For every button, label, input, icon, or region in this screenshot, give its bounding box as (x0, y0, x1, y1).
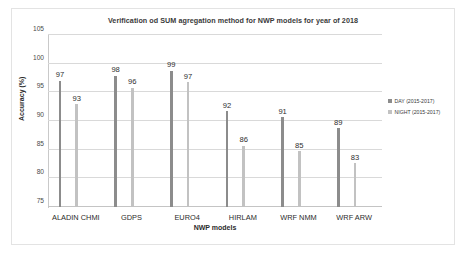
x-axis-category-label: EURO4 (174, 213, 199, 222)
bar-value-label: 85 (295, 141, 303, 150)
bar-value-label: 98 (111, 65, 119, 74)
bar: 98 (114, 76, 117, 207)
bar: 93 (75, 104, 78, 207)
chart-container: Verification od SUM agregation method fo… (11, 8, 455, 245)
chart-title: Verification od SUM agregation method fo… (12, 16, 454, 25)
bar-value-label: 91 (278, 107, 286, 116)
plot-area: 1051009590858075 9793ALADIN CHMI9896GDPS… (48, 35, 382, 207)
y-axis-tick-label: 80 (37, 168, 44, 175)
bar: 96 (131, 88, 134, 207)
bar: 97 (187, 82, 190, 207)
bar-value-label: 83 (351, 153, 359, 162)
bar: 85 (298, 151, 301, 207)
x-axis-category-label: HIRLAM (229, 213, 257, 222)
legend-item[interactable]: DAY (2015-2017) (388, 98, 454, 104)
bar-value-label: 96 (128, 77, 136, 86)
bar-value-label: 92 (223, 101, 231, 110)
legend-item[interactable]: NIGHT (2015-2017) (388, 109, 454, 115)
x-axis-category-label: GDPS (121, 213, 142, 222)
chart-legend: DAY (2015-2017)NIGHT (2015-2017) (388, 98, 454, 120)
bar-value-label: 97 (184, 72, 192, 81)
legend-label: NIGHT (2015-2017) (395, 109, 441, 115)
bar-value-label: 99 (167, 60, 175, 69)
y-axis-tick-label: 100 (33, 53, 44, 60)
bar-group: 9896GDPS (104, 35, 160, 207)
x-axis-category-label: WRF ARW (336, 213, 372, 222)
legend-swatch-icon (388, 99, 392, 103)
bar-group: 9286HIRLAM (215, 35, 271, 207)
bar-group: 8983WRF ARW (326, 35, 382, 207)
bar: 91 (281, 117, 284, 207)
y-axis-tick-label: 75 (37, 197, 44, 204)
x-axis-category-label: ALADIN CHMI (52, 213, 100, 222)
y-axis-tick-label: 95 (37, 82, 44, 89)
bar-value-label: 93 (72, 94, 80, 103)
bar-value-label: 89 (334, 118, 342, 127)
y-axis-tick-label: 85 (37, 139, 44, 146)
bar-group: 9185WRF NMM (271, 35, 327, 207)
bar: 89 (337, 128, 340, 207)
bar: 99 (170, 71, 173, 207)
bar: 83 (354, 163, 357, 207)
bar-group: 9997EURO4 (159, 35, 215, 207)
y-axis-title: Accuracy (%) (18, 77, 25, 121)
bar: 97 (59, 81, 62, 207)
legend-label: DAY (2015-2017) (395, 98, 435, 104)
legend-swatch-icon (388, 110, 392, 114)
bar: 86 (242, 146, 245, 207)
y-axis-tick-label: 90 (37, 111, 44, 118)
bar-value-label: 86 (239, 135, 247, 144)
y-axis-tick-label: 105 (33, 25, 44, 32)
bar: 92 (226, 111, 229, 207)
x-axis-title: NWP models (48, 224, 382, 231)
bar-group: 9793ALADIN CHMI (48, 35, 104, 207)
x-axis-category-label: WRF NMM (280, 213, 317, 222)
bar-value-label: 97 (56, 70, 64, 79)
